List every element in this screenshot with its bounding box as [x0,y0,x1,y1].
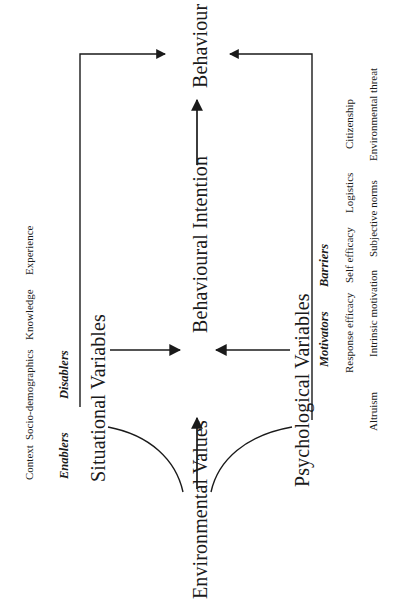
leaf-psychological-subjective-norms: Subjective norms [368,180,379,257]
leaf-psychological-self-efficacy: Self efficacy [344,227,355,283]
leaf-situational-socio-demographics: Socio-demographics [24,350,35,440]
node-situational-variables[interactable]: Situational Variables [88,314,108,482]
group-label-barriers: Barriers [318,244,331,287]
node-behavioural-intention[interactable]: Behavioural Intention [190,156,210,333]
figure-canvas: Environmental Values Situational Variabl… [0,0,393,605]
leaf-situational-experience: Experience [24,226,35,275]
group-label-motivators: Motivators [318,311,331,367]
connector-values-to-situational [108,427,183,492]
node-psychological-variables[interactable]: Psychological Variables [292,293,312,487]
diagram-root: Environmental Values Situational Variabl… [0,0,393,605]
group-label-enablers: Enablers [58,432,71,479]
leaf-psychological-environmental-threat: Environmental threat [368,68,379,161]
group-label-disablers: Disablers [58,350,71,399]
leaf-psychological-logistics: Logistics [344,173,355,213]
node-behaviour[interactable]: Behaviour [190,4,210,88]
leaf-situational-context: Context [24,445,35,480]
node-environmental-values[interactable]: Environmental Values [190,420,210,599]
leaf-psychological-altruism: Altruism [368,392,379,431]
leaf-psychological-citizenship: Citizenship [344,99,355,149]
connector-values-to-psychological [211,427,292,492]
leaf-psychological-intrinsic-motivation: Intrinsic motivation [368,270,379,357]
leaf-psychological-response-efficacy: Response efficacy [344,293,355,373]
leaf-situational-knowledge: Knowledge [24,289,35,340]
